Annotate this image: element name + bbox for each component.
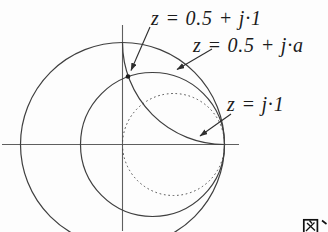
caption-next-glyph-fragment-icon	[322, 221, 327, 225]
figure-caption-icon	[304, 220, 327, 232]
label-z-05-plus-ja: z = 0.5 + j·a	[193, 33, 304, 57]
smith-chart-figure: z = 0.5 + j·1 z = 0.5 + j·a z = j·1	[0, 0, 328, 232]
point-marker-z05j1	[126, 74, 131, 79]
label-z-j1: z = j·1	[227, 92, 284, 116]
arrow-to-point-z05j1-icon	[131, 27, 150, 71]
arrow-to-arc-zj1-icon	[200, 114, 231, 136]
label-z-05-plus-j1: z = 0.5 + j·1	[151, 6, 262, 30]
